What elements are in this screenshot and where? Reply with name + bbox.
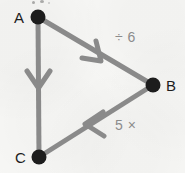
edge-a-to-c [27, 17, 50, 157]
vertex-label-a: A [14, 10, 24, 25]
directed-graph [0, 0, 185, 173]
vertex-a-dot [31, 10, 46, 25]
edge-a-to-b-line [38, 17, 153, 85]
edge-label-b-to-c: 5 × [115, 118, 136, 132]
vertex-b-dot [146, 78, 161, 93]
vertex-c-dot [32, 150, 47, 165]
edge-a-to-b [38, 17, 153, 85]
vertex-label-c: C [15, 150, 26, 165]
edge-label-a-to-b: ÷ 6 [115, 30, 136, 44]
diagram-canvas: A B C ÷ 6 5 × [0, 0, 185, 173]
vertex-label-b: B [166, 78, 176, 93]
